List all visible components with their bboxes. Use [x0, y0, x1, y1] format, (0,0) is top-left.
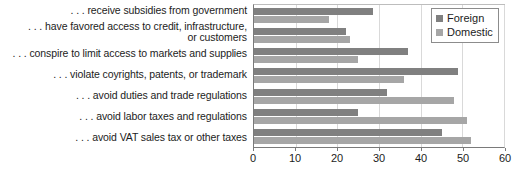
legend-swatch-icon: [436, 29, 443, 36]
bar-foreign: [254, 8, 373, 15]
category-label-row: . . . receive subsidies from government: [0, 0, 251, 21]
category-label: . . . have favored access to credit, inf…: [28, 21, 247, 44]
category-label: . . . avoid VAT sales tax or other taxes: [75, 132, 247, 144]
bar-domestic: [254, 56, 358, 63]
axis-tick: [379, 148, 380, 151]
category-label-row: . . . conspire to limit access to market…: [0, 44, 251, 65]
bar-group: [254, 106, 504, 126]
bar-group: [254, 66, 504, 86]
bar-foreign: [254, 68, 458, 75]
category-label: . . . receive subsidies from government: [71, 5, 247, 17]
bar-foreign: [254, 89, 387, 96]
bar-foreign: [254, 28, 346, 35]
bar-group: [254, 127, 504, 147]
category-label-row: . . . avoid VAT sales tax or other taxes: [0, 127, 251, 148]
axis-tick-label: 10: [289, 152, 301, 164]
legend-label: Foreign: [447, 12, 484, 24]
category-label-row: . . . have favored access to credit, inf…: [0, 21, 251, 44]
category-label: . . . avoid duties and trade regulations: [76, 90, 247, 102]
axis-tick: [463, 148, 464, 151]
bar-domestic: [254, 36, 350, 43]
bar-group: [254, 46, 504, 66]
axis-tick-label: 30: [373, 152, 385, 164]
category-axis: . . . receive subsidies from government …: [0, 0, 251, 148]
gridline: [504, 5, 505, 147]
axis-tick-label: 40: [415, 152, 427, 164]
category-label-row: . . . avoid duties and trade regulations: [0, 85, 251, 106]
axis-tick: [421, 148, 422, 151]
category-label: . . . conspire to limit access to market…: [13, 48, 247, 60]
value-axis: 0102030405060: [253, 148, 505, 168]
bar-domestic: [254, 97, 454, 104]
axis-tick-label: 60: [499, 152, 511, 164]
bar-foreign: [254, 109, 358, 116]
axis-tick: [295, 148, 296, 151]
category-label: . . . violate coyrights, patents, or tra…: [53, 69, 247, 81]
bar-chart: . . . receive subsidies from government …: [0, 0, 518, 174]
axis-tick: [253, 148, 254, 151]
axis-tick-label: 50: [457, 152, 469, 164]
bar-domestic: [254, 117, 467, 124]
legend: Foreign Domestic: [431, 8, 499, 43]
category-label-row: . . . violate coyrights, patents, or tra…: [0, 65, 251, 86]
axis-tick: [505, 148, 506, 151]
bar-foreign: [254, 48, 408, 55]
category-label-row: . . . avoid labor taxes and regulations: [0, 106, 251, 127]
bar-domestic: [254, 137, 471, 144]
bar-foreign: [254, 129, 442, 136]
legend-item-domestic: Domestic: [436, 25, 493, 39]
legend-swatch-icon: [436, 15, 443, 22]
legend-label: Domestic: [447, 26, 493, 38]
axis-tick-label: 0: [250, 152, 256, 164]
bar-domestic: [254, 76, 404, 83]
axis-tick-label: 20: [331, 152, 343, 164]
category-label: . . . avoid labor taxes and regulations: [79, 111, 247, 123]
legend-item-foreign: Foreign: [436, 11, 493, 25]
axis-tick: [337, 148, 338, 151]
bar-group: [254, 86, 504, 106]
bar-domestic: [254, 16, 329, 23]
